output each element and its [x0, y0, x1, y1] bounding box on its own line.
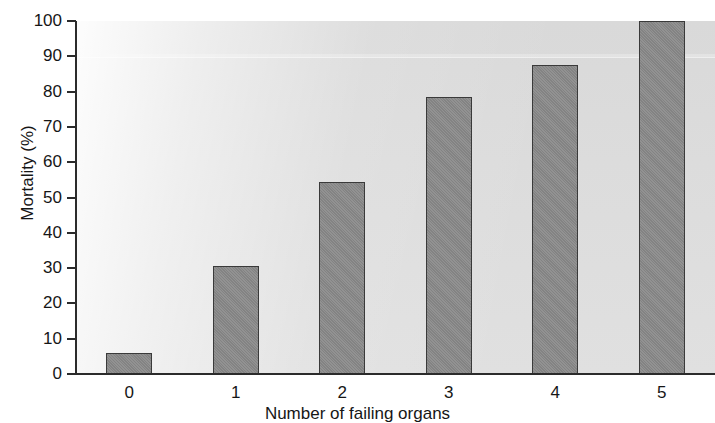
y-axis-tick: [67, 126, 76, 128]
y-axis-tick: [67, 302, 76, 304]
y-axis-tick-label: 90: [10, 47, 62, 64]
y-axis-tick-label: 10: [10, 330, 62, 347]
y-axis-tick: [67, 338, 76, 340]
y-axis-title: Mortality (%): [19, 83, 37, 263]
x-axis-line: [75, 373, 715, 375]
x-axis-tick-label: 5: [642, 383, 682, 402]
x-axis-tick-label: 0: [109, 383, 149, 402]
y-axis-tick: [67, 232, 76, 234]
y-axis-tick: [67, 55, 76, 57]
y-axis-tick-label: 20: [10, 294, 62, 311]
bar: [639, 21, 685, 374]
y-axis-tick: [67, 197, 76, 199]
y-axis-tick: [67, 373, 76, 375]
y-axis-tick-label: 0: [10, 365, 62, 382]
bar: [106, 353, 152, 374]
x-axis-tick-label: 4: [535, 383, 575, 402]
bar: [426, 97, 472, 374]
y-axis-tick-label: 100: [10, 12, 62, 29]
plot-area: [76, 21, 715, 374]
bar: [319, 182, 365, 374]
x-axis-tick-label: 3: [429, 383, 469, 402]
bar: [532, 65, 578, 374]
y-axis-tick: [67, 20, 76, 22]
x-axis-title: Number of failing organs: [0, 404, 715, 423]
x-axis-tick-label: 1: [216, 383, 256, 402]
y-axis-tick: [67, 267, 76, 269]
scan-seam: [76, 57, 715, 58]
bar: [213, 266, 259, 374]
y-axis-tick: [67, 91, 76, 93]
x-axis-tick-label: 2: [322, 383, 362, 402]
y-axis-tick: [67, 161, 76, 163]
